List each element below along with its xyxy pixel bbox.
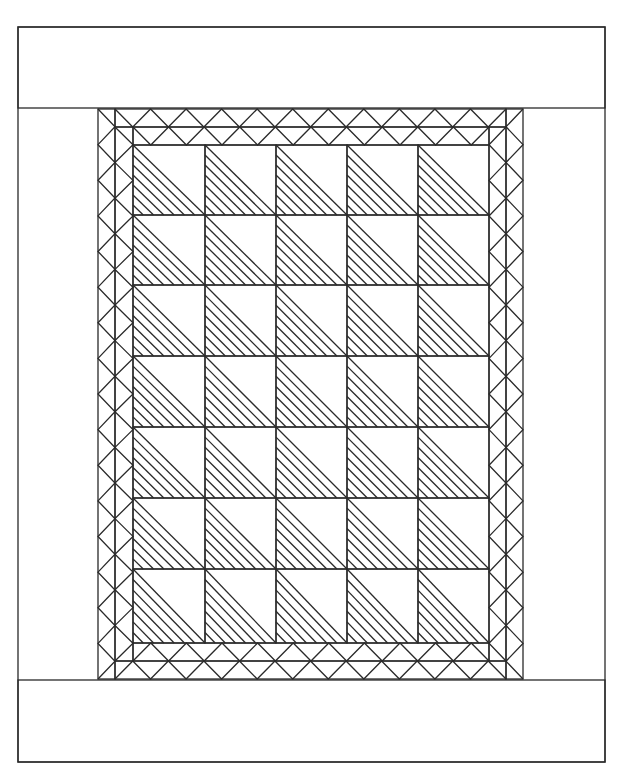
outer-top-outline bbox=[115, 109, 506, 127]
hatch-line bbox=[133, 590, 184, 643]
block-diagonal bbox=[133, 285, 205, 356]
block-diagonal bbox=[347, 569, 418, 643]
hatch-line bbox=[347, 235, 398, 285]
inner-bottom-outline bbox=[133, 643, 489, 661]
hatch-line bbox=[276, 528, 317, 569]
hatch-line bbox=[205, 437, 266, 498]
quilt-block bbox=[205, 498, 276, 569]
hatch-line bbox=[347, 488, 357, 498]
quilt-block bbox=[418, 145, 489, 215]
block-diagonal bbox=[418, 498, 489, 569]
hatch-line bbox=[133, 386, 174, 427]
hatch-line bbox=[418, 528, 459, 569]
hatch-line bbox=[276, 376, 327, 427]
quilt-block bbox=[347, 285, 418, 356]
block-diagonal bbox=[133, 356, 205, 427]
hatch-line bbox=[347, 447, 398, 498]
quilt-block bbox=[347, 215, 418, 285]
hatch-line bbox=[347, 376, 398, 427]
hatch-line bbox=[133, 417, 143, 427]
quilt-block bbox=[276, 285, 347, 356]
block-diagonal bbox=[133, 569, 205, 643]
hatch-line bbox=[133, 632, 143, 643]
quilt-block bbox=[205, 569, 276, 643]
inner-top-outline bbox=[133, 127, 489, 145]
hatch-line bbox=[347, 225, 408, 285]
hatch-line bbox=[205, 376, 256, 427]
hatch-line bbox=[133, 165, 184, 215]
hatch-line bbox=[133, 457, 174, 498]
block-diagonal bbox=[133, 145, 205, 215]
hatch-line bbox=[418, 235, 469, 285]
quilt-block bbox=[133, 356, 205, 427]
hatch-line bbox=[347, 508, 408, 569]
hatch-line bbox=[276, 417, 286, 427]
hatch-line bbox=[276, 580, 337, 643]
hatch-line bbox=[347, 528, 388, 569]
block-diagonal bbox=[347, 145, 418, 215]
hatch-line bbox=[347, 175, 388, 215]
block-diagonal bbox=[418, 427, 489, 498]
hatch-line bbox=[276, 386, 317, 427]
hatch-line bbox=[276, 336, 296, 356]
hatch-line bbox=[276, 155, 337, 215]
block-diagonal bbox=[347, 215, 418, 285]
hatch-line bbox=[205, 488, 215, 498]
hatch-line bbox=[418, 165, 469, 215]
hatch-line bbox=[205, 559, 215, 569]
hatch-line bbox=[418, 265, 438, 285]
hatch-line bbox=[418, 195, 438, 215]
hatch-line bbox=[133, 447, 184, 498]
hatch-line bbox=[133, 528, 174, 569]
quilt-block bbox=[133, 285, 205, 356]
hatch-line bbox=[347, 478, 367, 498]
hatch-line bbox=[418, 601, 459, 643]
quilt-block bbox=[276, 145, 347, 215]
hatch-line bbox=[276, 559, 286, 569]
quilt-block bbox=[276, 215, 347, 285]
quilt-block bbox=[276, 498, 347, 569]
hatch-line bbox=[347, 366, 408, 427]
hatch-line bbox=[418, 346, 428, 356]
hatch-line bbox=[205, 457, 246, 498]
hatch-line bbox=[418, 559, 428, 569]
hatch-line bbox=[418, 478, 438, 498]
quilt-block bbox=[133, 427, 205, 498]
hatch-line bbox=[205, 346, 215, 356]
inner-left-zigzag bbox=[115, 127, 133, 661]
hatch-line bbox=[276, 601, 317, 643]
hatch-line bbox=[133, 488, 143, 498]
hatch-line bbox=[205, 407, 225, 427]
hatch-line bbox=[418, 175, 459, 215]
hatch-line bbox=[205, 528, 246, 569]
hatch-line bbox=[276, 315, 317, 356]
hatch-line bbox=[418, 549, 438, 569]
hatch-line bbox=[205, 632, 215, 643]
hatch-line bbox=[205, 225, 266, 285]
hatch-line bbox=[205, 366, 266, 427]
block-diagonal bbox=[133, 498, 205, 569]
hatch-line bbox=[276, 346, 286, 356]
hatch-line bbox=[133, 275, 143, 285]
hatch-line bbox=[133, 305, 184, 356]
hatch-line bbox=[205, 155, 266, 215]
hatch-line bbox=[276, 305, 327, 356]
hatch-line bbox=[205, 315, 246, 356]
quilt-block bbox=[276, 427, 347, 498]
hatch-line bbox=[133, 265, 154, 285]
outer-bottom-zigzag bbox=[115, 661, 506, 679]
hatch-line bbox=[205, 175, 246, 215]
hatch-line bbox=[347, 580, 408, 643]
hatch-line bbox=[205, 305, 256, 356]
hatch-line bbox=[347, 265, 367, 285]
hatch-line bbox=[347, 407, 367, 427]
block-diagonal bbox=[276, 427, 347, 498]
hatch-line bbox=[205, 478, 225, 498]
hatch-line bbox=[276, 549, 296, 569]
hatch-line bbox=[133, 225, 195, 285]
inner-zigzag-border bbox=[115, 127, 506, 661]
hatch-line bbox=[276, 447, 327, 498]
block-diagonal bbox=[133, 215, 205, 285]
hatch-line bbox=[276, 518, 327, 569]
hatch-line bbox=[276, 295, 337, 356]
